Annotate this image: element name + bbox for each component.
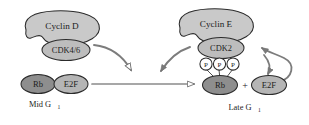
cdk46-label: CDK4/6 bbox=[52, 46, 80, 55]
rb-label-right: Rb bbox=[215, 80, 225, 90]
arrow-e2f-release bbox=[264, 55, 270, 74]
phosphate-group: P P P bbox=[200, 58, 239, 70]
arrow-cdk46-to-rb-complex bbox=[94, 45, 131, 70]
cyclin-e-label: Cyclin E bbox=[200, 19, 233, 29]
e2f-label-right: E2F bbox=[262, 80, 277, 90]
e2f-label-left: E2F bbox=[64, 79, 79, 89]
phosphate-label-2: P bbox=[218, 61, 222, 69]
stage-subscript-mid-g1: 1 bbox=[58, 104, 61, 110]
cell-cycle-diagram: Cyclin D CDK4/6 Rb E2F Mid G 1 bbox=[0, 0, 309, 125]
rb-label-left: Rb bbox=[33, 79, 43, 89]
cyclin-d-label: Cyclin D bbox=[45, 21, 79, 31]
cdk2-label: CDK2 bbox=[210, 44, 232, 53]
stage-label-mid-g1: Mid G bbox=[29, 100, 51, 109]
diagram-canvas: Cyclin D CDK4/6 Rb E2F Mid G 1 bbox=[0, 0, 309, 125]
stage-label-late-g1: Late G bbox=[228, 103, 251, 112]
stage-subscript-late-g1: 1 bbox=[258, 107, 261, 113]
phosphate-label-1: P bbox=[204, 61, 208, 69]
arrow-cyclin-e-cdk2-phosphorylates bbox=[161, 47, 190, 71]
left-panel-mid-g1: Cyclin D CDK4/6 Rb E2F Mid G 1 bbox=[21, 11, 99, 110]
phosphate-label-3: P bbox=[231, 61, 235, 69]
plus-separator: + bbox=[242, 80, 248, 91]
right-panel-late-g1: Cyclin E CDK2 P P P Rb bbox=[179, 9, 286, 113]
